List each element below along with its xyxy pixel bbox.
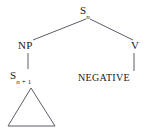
syntax-tree-diagram: Sn NP Sn + 1 V NEGATIVE xyxy=(0,0,166,131)
subscript-number: 1 xyxy=(28,78,32,86)
tree-edges-canvas xyxy=(0,0,166,131)
node-label-negative: NEGATIVE xyxy=(78,73,130,83)
elided-subtree-triangle xyxy=(8,88,55,126)
subscript-operator: + xyxy=(20,78,28,86)
edge-root-to-np xyxy=(33,19,86,40)
node-label-root: Sn xyxy=(80,5,90,19)
node-label-np: NP xyxy=(18,40,33,51)
node-embedded-s-subscript: n + 1 xyxy=(16,78,31,86)
node-label-embedded-s: Sn + 1 xyxy=(10,70,31,84)
node-root-subscript: n xyxy=(86,13,90,21)
edge-root-to-v xyxy=(90,19,133,40)
node-label-v: V xyxy=(131,40,139,51)
